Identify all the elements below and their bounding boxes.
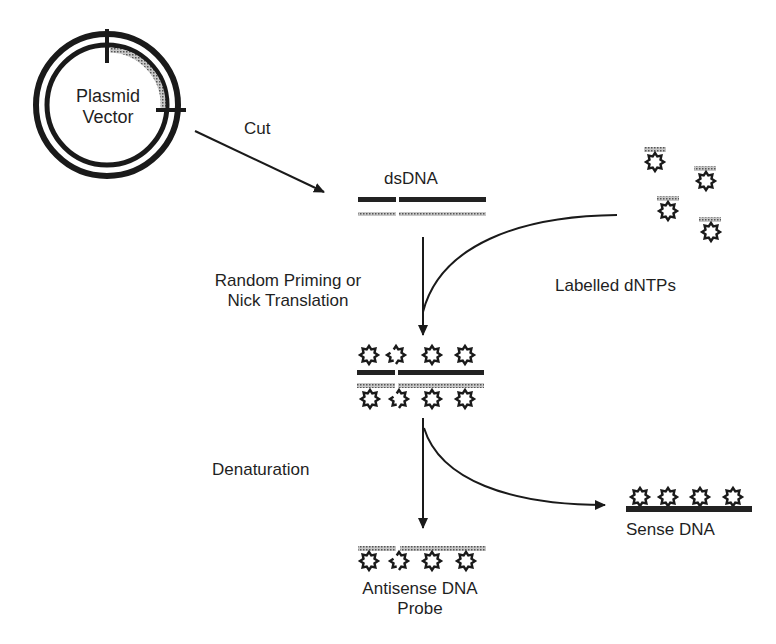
dsdna-strands bbox=[358, 197, 486, 216]
plasmid-label: Plasmid Vector bbox=[62, 86, 154, 128]
plasmid-label-line2: Vector bbox=[62, 107, 154, 128]
labelled-duplex bbox=[357, 346, 484, 408]
sense-dna-label: Sense DNA bbox=[626, 520, 715, 540]
sense-dna bbox=[626, 488, 752, 512]
dsdna-label: dsDNA bbox=[384, 169, 438, 189]
sense-arrow bbox=[424, 428, 605, 505]
priming-label: Random Priming or Nick Translation bbox=[178, 271, 398, 311]
priming-label-line1: Random Priming or bbox=[178, 271, 398, 291]
antisense-label-line2: Probe bbox=[340, 599, 500, 619]
dntp-incorporation-curve bbox=[423, 215, 617, 312]
antisense-label: Antisense DNA Probe bbox=[340, 579, 500, 619]
cut-arrow bbox=[195, 131, 324, 192]
antisense-probe bbox=[358, 546, 486, 570]
cut-label: Cut bbox=[244, 119, 270, 139]
priming-label-line2: Nick Translation bbox=[178, 291, 398, 311]
denaturation-label: Denaturation bbox=[212, 460, 309, 480]
antisense-label-line1: Antisense DNA bbox=[340, 579, 500, 599]
plasmid-label-line1: Plasmid bbox=[62, 86, 154, 107]
labelled-dntps-icon bbox=[644, 147, 721, 241]
dntps-label: Labelled dNTPs bbox=[555, 276, 676, 296]
